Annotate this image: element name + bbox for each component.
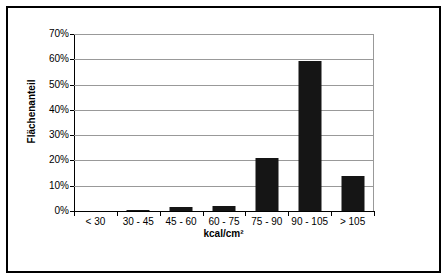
bar-slot [160,34,203,211]
bar[interactable] [298,61,321,211]
figure-frame: Flächenanteil 0%10%20%30%40%50%60%70% < … [6,6,441,273]
bar[interactable] [127,210,150,211]
y-axis-tick-label: 40% [29,105,69,115]
bar-chart: Flächenanteil 0%10%20%30%40%50%60%70% < … [8,8,439,271]
x-axis-category-label: > 105 [331,216,374,227]
bar[interactable] [341,176,364,211]
bar[interactable] [212,206,235,211]
bar[interactable] [255,158,278,211]
bar-slot [245,34,288,211]
plot-area [74,34,374,211]
x-axis-category-label: 45 - 60 [160,216,203,227]
bars-layer [74,34,374,211]
x-axis-category-label: 90 - 105 [288,216,331,227]
x-axis-tick-mark [374,211,375,216]
bar-slot [288,34,331,211]
x-axis-category-label: 75 - 90 [245,216,288,227]
bar-slot [117,34,160,211]
bar[interactable] [170,207,193,211]
x-axis-category-label: < 30 [74,216,117,227]
y-axis-tick-label: 10% [29,181,69,191]
bar-slot [203,34,246,211]
gridline [74,211,374,212]
bar-slot [331,34,374,211]
y-axis-tick-label: 30% [29,130,69,140]
y-axis-tick-label: 70% [29,29,69,39]
y-axis-tick-label: 60% [29,54,69,64]
y-axis-tick-label: 50% [29,80,69,90]
y-axis-tick-label: 20% [29,155,69,165]
x-axis-category-label: 60 - 75 [203,216,246,227]
x-axis-title: kcal/cm² [8,228,439,239]
y-axis-tick-label: 0% [29,206,69,216]
bar-slot [74,34,117,211]
x-axis-category-label: 30 - 45 [117,216,160,227]
